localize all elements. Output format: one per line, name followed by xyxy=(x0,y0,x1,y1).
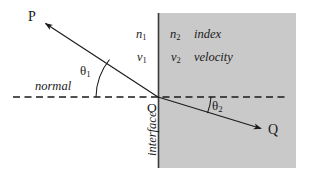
n1-subscript: 1 xyxy=(142,32,146,42)
n2-subscript: 2 xyxy=(176,32,180,42)
label-n1: n1 xyxy=(136,28,147,42)
v2-subscript: 2 xyxy=(177,55,181,65)
theta2-subscript: 2 xyxy=(218,104,222,114)
label-point-q: Q xyxy=(268,123,278,137)
label-n2: n2 xyxy=(170,28,181,42)
label-interface: interface xyxy=(146,112,159,156)
label-v1: v1 xyxy=(137,51,147,65)
diagram-canvas xyxy=(0,0,312,188)
label-v2: v2 xyxy=(171,51,181,65)
theta1-arc xyxy=(96,60,110,98)
theta1-subscript: 1 xyxy=(86,69,90,79)
label-normal: normal xyxy=(35,80,71,93)
label-theta1: θ1 xyxy=(80,64,91,79)
label-point-p: P xyxy=(28,10,36,24)
label-index: index xyxy=(194,28,221,41)
label-theta2: θ2 xyxy=(212,99,223,114)
refraction-diagram: P O Q θ1 θ2 normal interface n1 v1 n2 v2… xyxy=(0,0,312,188)
label-velocity: velocity xyxy=(194,51,233,64)
v1-subscript: 1 xyxy=(143,55,147,65)
